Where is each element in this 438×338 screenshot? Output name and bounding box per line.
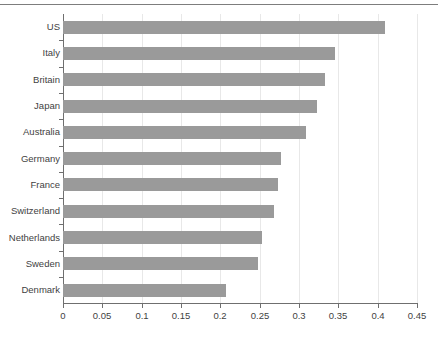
x-axis-tick [142, 304, 143, 308]
y-axis-tick [59, 224, 63, 225]
x-axis-tick-label: 0.3 [279, 310, 319, 321]
y-axis-tick [59, 146, 63, 147]
gridline [378, 14, 379, 303]
y-axis-tick [59, 119, 63, 120]
y-axis-tick [59, 40, 63, 41]
category-label: Netherlands [0, 233, 60, 243]
x-axis-line [63, 303, 418, 304]
category-label: Japan [0, 101, 60, 111]
x-axis-tick-label: 0.45 [397, 310, 437, 321]
bar [63, 100, 317, 113]
category-label: Australia [0, 127, 60, 137]
bar [63, 126, 306, 139]
category-label: France [0, 180, 60, 190]
category-label: Switzerland [0, 206, 60, 216]
x-axis-tick-label: 0 [43, 310, 83, 321]
x-axis-tick-label: 0.35 [318, 310, 358, 321]
x-axis-tick [417, 304, 418, 308]
x-axis-tick-label: 0.25 [240, 310, 280, 321]
bar-chart: 00.050.10.150.20.250.30.350.40.45 USItal… [0, 0, 438, 338]
bar [63, 205, 274, 218]
y-axis-tick [59, 277, 63, 278]
bar [63, 284, 226, 297]
category-label: Britain [0, 75, 60, 85]
x-axis-tick-label: 0.2 [200, 310, 240, 321]
x-axis-tick [378, 304, 379, 308]
y-axis-tick [59, 198, 63, 199]
x-axis-tick-label: 0.1 [122, 310, 162, 321]
gridline [338, 14, 339, 303]
bar [63, 47, 335, 60]
bar [63, 257, 258, 270]
x-axis-tick-label: 0.05 [82, 310, 122, 321]
x-axis-tick [260, 304, 261, 308]
y-axis-tick [59, 67, 63, 68]
category-label: Sweden [0, 259, 60, 269]
x-axis-tick [299, 304, 300, 308]
top-divider-rule [0, 4, 438, 5]
x-axis-tick-label: 0.4 [358, 310, 398, 321]
x-axis-tick [63, 304, 64, 308]
y-axis-tick [59, 172, 63, 173]
y-axis-tick [59, 251, 63, 252]
category-label: Italy [0, 48, 60, 58]
gridline [417, 14, 418, 303]
bar [63, 178, 278, 191]
category-label: Denmark [0, 285, 60, 295]
category-label: US [0, 22, 60, 32]
x-axis-tick [338, 304, 339, 308]
x-axis-tick [181, 304, 182, 308]
bar [63, 21, 385, 34]
bar [63, 231, 262, 244]
x-axis-tick [220, 304, 221, 308]
x-axis-tick [102, 304, 103, 308]
y-axis-tick [59, 93, 63, 94]
bar [63, 73, 325, 86]
category-label: Germany [0, 154, 60, 164]
x-axis-tick-label: 0.15 [161, 310, 201, 321]
bar [63, 152, 281, 165]
